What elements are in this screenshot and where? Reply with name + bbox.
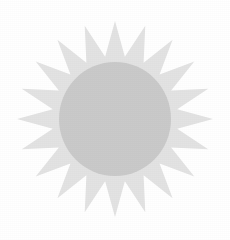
inner-disc <box>59 62 171 176</box>
graphic-canvas <box>0 0 230 240</box>
sunburst-star-svg <box>0 0 230 240</box>
